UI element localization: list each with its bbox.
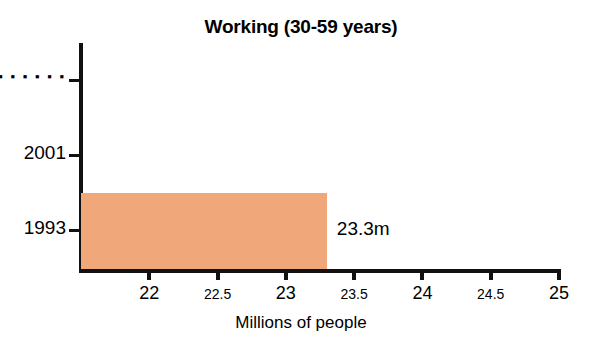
x-axis-tick-mark: [420, 269, 424, 280]
y-axis-tick-label: ▪ ▪ ▪ ▪ ▪ ▪: [0, 69, 66, 84]
x-axis-tick-label: 22: [114, 283, 184, 304]
x-axis-tick-mark: [489, 269, 493, 280]
x-axis-tick-label: 25: [524, 283, 594, 304]
y-axis-tick-label: 2001: [0, 142, 66, 164]
chart-container: Working (30-59 years) ▪ ▪ ▪ ▪ ▪ ▪2001199…: [0, 0, 602, 352]
bar-1993: [81, 193, 327, 269]
chart-title: Working (30-59 years): [0, 16, 602, 38]
x-axis-tick-label: 22.5: [183, 286, 253, 302]
x-axis-tick-label: 23: [251, 283, 321, 304]
x-axis-tick-mark: [216, 269, 220, 280]
bar-value-label: 23.3m: [337, 218, 390, 240]
x-axis-tick-mark: [284, 269, 288, 280]
x-axis-tick-mark: [147, 269, 151, 280]
y-axis-tick-mark: [69, 154, 81, 157]
x-axis-tick-mark: [352, 269, 356, 280]
x-axis-tick-label: 24.5: [456, 286, 526, 302]
x-axis-tick-label: 23.5: [319, 286, 389, 302]
x-axis-tick-label: 24: [387, 283, 457, 304]
x-axis-tick-mark: [557, 269, 561, 280]
y-axis-tick-mark: [69, 229, 81, 232]
y-axis-tick-label: 1993: [0, 217, 66, 239]
x-axis-title: Millions of people: [0, 313, 602, 333]
y-axis-tick-mark: [69, 79, 81, 82]
